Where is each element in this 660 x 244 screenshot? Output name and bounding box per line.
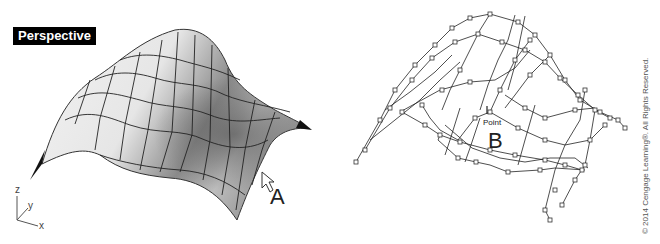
control-points-viewport[interactable]: Point B <box>340 0 630 244</box>
callout-b: B <box>488 128 503 154</box>
axis-x-label: x <box>39 220 44 231</box>
copyright-notice: © 2014 Cengage Learning®. All Rights Res… <box>641 58 650 234</box>
perspective-viewport[interactable]: Perspective A z y x <box>0 0 335 244</box>
control-points <box>354 12 627 222</box>
viewport-label[interactable]: Perspective <box>13 27 96 45</box>
point-label: Point <box>483 118 501 127</box>
callout-a: A <box>270 184 285 210</box>
axis-z-label: z <box>15 184 20 195</box>
axis-y-label: y <box>28 200 33 211</box>
